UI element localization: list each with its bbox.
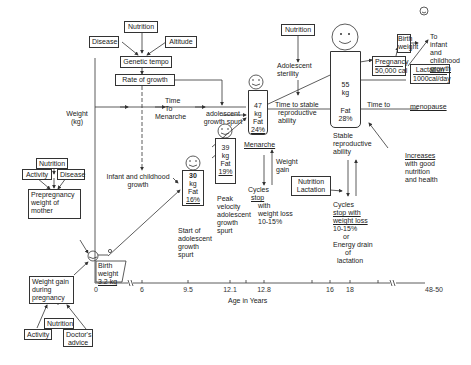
nutrition-box-mother: Nutrition <box>36 158 68 169</box>
label-line: Birth <box>98 262 118 270</box>
label-line: ability <box>275 117 319 125</box>
label-line: sterility <box>277 70 312 78</box>
x-tick-9-5: 9.5 <box>183 286 193 293</box>
altitude-box: Altitude <box>165 36 197 48</box>
weight-unit: kg <box>333 89 358 97</box>
label-line: Menarche <box>155 113 186 121</box>
to-infant-growth-label: To infant and childhood growth <box>430 33 460 73</box>
doctors-advice-box: Doctor's advice <box>63 329 93 347</box>
label-line: childhood <box>430 57 460 65</box>
label-line: 50,000 cal <box>375 66 403 75</box>
nutrition-box-top: Nutrition <box>124 21 158 33</box>
genetic-tempo-box: Genetic tempo <box>120 56 172 68</box>
time-to-label: Time to <box>367 101 390 109</box>
label-line: during <box>32 286 71 294</box>
x-axis-label: Age in Years <box>228 297 267 305</box>
label-line: Time <box>155 97 186 105</box>
label-line: and health <box>405 176 438 184</box>
label-line: Pregnancy <box>375 58 403 66</box>
label-line: Nutrition <box>294 178 328 186</box>
weight-unit: kg <box>218 152 233 160</box>
label-line: Adolescent <box>277 62 312 70</box>
label-line: Time to stable <box>275 101 319 109</box>
chest-marks <box>251 92 265 102</box>
menarche-caption: Menarche <box>244 141 275 149</box>
fat-label: Fat <box>251 118 265 126</box>
fat-value: 16% <box>185 196 201 204</box>
label-line: with good <box>405 160 438 168</box>
x-tick-16: 16 <box>326 286 334 293</box>
stage-55kg-figure: 55 kg Fat 28% <box>330 51 361 128</box>
label-line: spurt <box>217 227 251 235</box>
cycles-stop-lactation-label: Cycles stop with weight loss 10-15% or E… <box>333 201 383 265</box>
label-line: Infant and childhood <box>96 173 180 181</box>
label-line: weight of <box>31 199 78 207</box>
label-line: growth <box>430 65 460 73</box>
label-line: stop <box>248 194 293 202</box>
fat-label: Fat <box>185 188 201 196</box>
label-line: velocity <box>217 203 251 211</box>
spacer <box>333 97 358 107</box>
stage-47kg-figure: 47 kg Fat 24% <box>248 90 268 135</box>
stage-30kg-caption: Start of adolescent growth spurt <box>178 227 212 259</box>
fat-label: Fat <box>333 107 358 115</box>
y-axis-label-line2: (kg) <box>62 118 92 126</box>
fat-value: 24% <box>251 126 265 134</box>
weight-gain-pregnancy-box: Weight gain during pregnancy <box>29 276 74 304</box>
label-line: nutrition <box>405 168 438 176</box>
menopause-label: menopause <box>410 103 447 111</box>
birth-weight-label: Birth weight 3.2 kg <box>98 262 118 286</box>
label-line: growth <box>217 219 251 227</box>
activity-box-mother: Activity <box>22 169 52 180</box>
label-line: 3.2 kg <box>98 278 118 286</box>
label-line: gain <box>276 166 298 174</box>
birth-weight-box-offspring: Birth weight <box>397 34 411 53</box>
label-line: Weight gain <box>32 278 71 286</box>
label-line: Cycles <box>333 201 383 209</box>
fat-value: 19% <box>218 168 233 176</box>
x-tick-12-1: 12.1 <box>223 286 237 293</box>
label-line: weight loss <box>248 210 293 218</box>
weight-unit: kg <box>251 110 265 118</box>
label-line: Lactation <box>294 186 328 194</box>
weight-value: 55 <box>333 81 358 89</box>
label-line: or <box>333 233 383 241</box>
label-line: pregnancy <box>32 294 71 302</box>
label-line: To <box>155 105 186 113</box>
label-line: growth spurt <box>196 118 250 126</box>
label-line: 10-15% <box>333 225 383 233</box>
label-line: To <box>430 33 460 41</box>
label-line: growth <box>178 243 212 251</box>
label-line: Energy drain <box>333 241 383 249</box>
label-line: Stable <box>333 132 372 140</box>
label-line: weight <box>98 270 118 278</box>
fat-label: Fat <box>218 160 233 168</box>
time-to-menarche-label: Time To Menarche <box>155 97 186 121</box>
x-tick-6: 6 <box>140 286 144 293</box>
label-line: Cycles <box>248 186 293 194</box>
activity-box-pregnancy: Activity <box>24 329 52 340</box>
x-tick-18: 18 <box>346 286 354 293</box>
label-line: ability <box>333 148 372 156</box>
label-line: advice <box>66 339 90 347</box>
weight-unit: kg <box>185 180 201 188</box>
disease-box-mother: Disease <box>57 169 85 180</box>
label-line: Birth <box>398 35 410 43</box>
label-line: adolescent <box>217 211 251 219</box>
disease-box-top: Disease <box>89 36 119 48</box>
weight-gain-label: Weight gain <box>276 158 298 174</box>
label-line: Increases <box>405 152 438 160</box>
infant-childhood-growth-label: Infant and childhood growth <box>96 173 180 189</box>
weight-value: 47 <box>251 102 265 110</box>
label-line: with <box>248 202 293 210</box>
fat-value: 28% <box>333 115 358 123</box>
label-line: reproductive <box>275 109 319 117</box>
stage-39kg-figure: 39 kg Fat 19% <box>215 138 236 184</box>
y-axis-label: Weight (kg) <box>62 110 92 126</box>
weight-value: 30 <box>185 172 201 180</box>
label-line: infant <box>430 41 460 49</box>
label-line: reproductive <box>333 140 372 148</box>
label-line: spurt <box>178 251 212 259</box>
stage-30kg-figure: 30 kg Fat 16% <box>182 170 204 206</box>
x-tick-48-50: 48-50 <box>425 286 443 293</box>
